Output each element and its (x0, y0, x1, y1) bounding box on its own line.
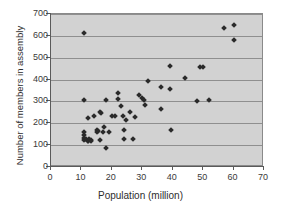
data-point (115, 90, 121, 96)
data-point (222, 25, 228, 31)
data-point (132, 114, 138, 120)
x-tick-label-70: 70 (251, 172, 275, 182)
x-tick-70 (263, 166, 264, 170)
y-tick-label-600: 600 (33, 30, 48, 40)
x-tick-label-40: 40 (160, 172, 184, 182)
x-tick-label-20: 20 (99, 172, 123, 182)
data-point (100, 129, 106, 135)
data-point (103, 146, 109, 152)
gridline-y-400 (51, 80, 262, 81)
gridline-y-600 (51, 36, 262, 37)
data-point (158, 106, 164, 112)
data-point (158, 84, 164, 90)
scatter-chart: 0100200300400500600700010203040506070 Po… (0, 0, 281, 216)
x-tick-20 (111, 166, 112, 170)
data-point (82, 30, 88, 36)
data-point (91, 113, 97, 119)
data-point (121, 137, 127, 143)
y-tick-label-500: 500 (33, 52, 48, 62)
gridline-y-500 (51, 58, 262, 59)
gridline-y-200 (51, 123, 262, 124)
x-tick-label-10: 10 (68, 172, 92, 182)
data-point (231, 37, 237, 43)
gridline-y-100 (51, 145, 262, 146)
y-tick-label-400: 400 (33, 74, 48, 84)
y-tick-label-0: 0 (43, 161, 48, 171)
x-axis-label: Population (million) (0, 190, 281, 201)
data-point (106, 129, 112, 135)
y-axis-label: Number of members in assembly (14, 21, 25, 171)
data-point (97, 137, 103, 143)
x-tick-label-50: 50 (190, 172, 214, 182)
y-axis-line (50, 13, 51, 167)
y-tick-label-700: 700 (33, 8, 48, 18)
x-tick-label-30: 30 (129, 172, 153, 182)
data-point (231, 22, 237, 28)
data-point (121, 127, 127, 133)
data-point (85, 115, 91, 121)
x-axis-line (50, 166, 263, 167)
data-point (127, 109, 133, 115)
data-point (98, 110, 104, 116)
data-point (167, 63, 173, 69)
data-point (194, 98, 200, 104)
y-tick-label-100: 100 (33, 139, 48, 149)
y-tick-label-300: 300 (33, 95, 48, 105)
y-tick-label-200: 200 (33, 117, 48, 127)
x-tick-40 (172, 166, 173, 170)
x-tick-0 (50, 166, 51, 170)
x-tick-label-0: 0 (38, 172, 62, 182)
data-point (168, 127, 174, 133)
data-point (167, 87, 173, 93)
x-tick-50 (202, 166, 203, 170)
data-point (200, 64, 206, 70)
data-point (142, 102, 148, 108)
x-tick-label-60: 60 (221, 172, 245, 182)
x-tick-10 (80, 166, 81, 170)
data-point (112, 113, 118, 119)
gridline-y-700 (51, 14, 262, 15)
x-tick-30 (141, 166, 142, 170)
x-tick-60 (233, 166, 234, 170)
data-point (118, 103, 124, 109)
plot-area (50, 13, 263, 166)
data-point (130, 137, 136, 143)
